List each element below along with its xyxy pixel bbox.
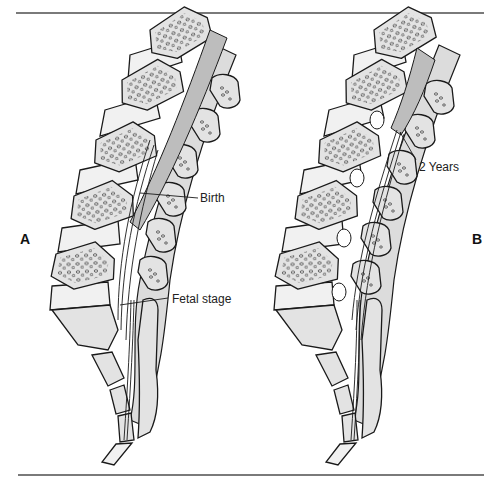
panel-label-a: A xyxy=(20,231,30,247)
spine-diagram xyxy=(0,0,496,483)
callout-fetal-stage: Fetal stage xyxy=(172,292,231,306)
callout-birth: Birth xyxy=(200,191,225,205)
panel-label-b: B xyxy=(472,231,482,247)
panel-a-spine xyxy=(49,1,240,465)
callout-two-years: 2 Years xyxy=(419,160,459,174)
panel-b-spine xyxy=(273,1,460,465)
